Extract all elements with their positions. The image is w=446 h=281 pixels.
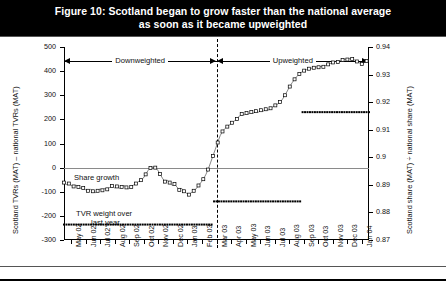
series-tvr-weight-over-last-year [63,111,370,225]
series-layer [0,37,446,262]
chart-area: -300-200-10001002003004005000.870.880.89… [0,37,446,262]
figure-panel: Figure 10: Scotland began to grow faster… [0,0,446,281]
bottom-divider [0,266,446,267]
page-title-line-1: Figure 10: Scotland began to grow faster… [55,5,391,18]
figure-title-banner: Figure 10: Scotland began to grow faster… [0,0,446,36]
page-title-line-2: as soon as it became upweighted [139,18,307,31]
series-share-growth [63,58,370,197]
